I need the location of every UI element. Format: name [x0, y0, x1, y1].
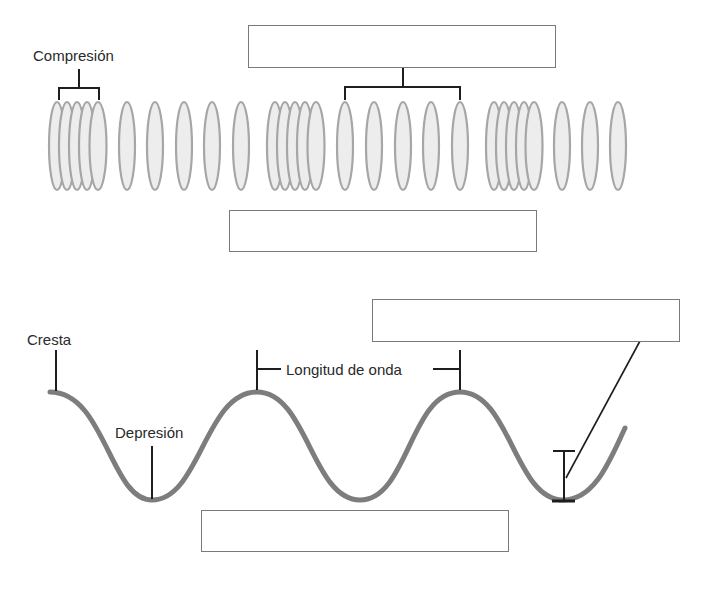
compression-group-3: [486, 102, 543, 190]
wavelength-label: Longitud de onda: [286, 362, 402, 377]
rarefaction-group-1: [119, 102, 249, 190]
rarefaction-answer-box[interactable]: [248, 25, 556, 68]
crest-label: Cresta: [27, 332, 71, 347]
rarefaction-group-2: [337, 102, 468, 190]
compression-bracket: [59, 69, 99, 100]
amplitude-marker: [552, 341, 640, 501]
compression-label: Compresión: [33, 48, 114, 63]
wave-curve: [50, 392, 625, 500]
longitudinal-wave-answer-box[interactable]: [229, 210, 537, 252]
transverse-wave: [50, 392, 625, 500]
amplitude-answer-box[interactable]: [372, 299, 680, 342]
rarefaction-bracket: [345, 67, 460, 100]
rarefaction-group-3: [554, 102, 626, 190]
trough-label: Depresión: [115, 425, 183, 440]
transverse-wave-answer-box[interactable]: [201, 510, 509, 552]
longitudinal-wave: [49, 102, 626, 190]
compression-group-2: [267, 102, 325, 190]
compression-group-1: [49, 102, 107, 190]
